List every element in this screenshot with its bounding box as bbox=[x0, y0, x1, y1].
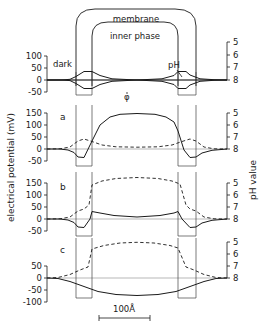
right-axis-title: pH value bbox=[248, 160, 258, 200]
ph-tick-a-6: 6 bbox=[233, 120, 238, 130]
ph-tick-c-7: 7 bbox=[233, 261, 238, 271]
label-ph: pH bbox=[168, 60, 180, 70]
ph-tick-dark-7: 7 bbox=[233, 62, 238, 72]
ph-tick-c-6: 6 bbox=[233, 249, 238, 259]
left-axis-title: electrical potential (mV) bbox=[6, 113, 16, 222]
membrane-potential-figure: membrane inner phase 100 50 0 -50 5 6 7 … bbox=[0, 0, 263, 335]
tick-b-150: 150 bbox=[26, 178, 42, 188]
tick-b-minus50: -50 bbox=[28, 226, 42, 236]
curve-ph-c bbox=[47, 242, 227, 278]
panel-dark: 100 50 0 -50 5 6 7 8 dark pH φ bbox=[26, 37, 239, 102]
wall-right-c bbox=[178, 238, 196, 298]
label-membrane: membrane bbox=[113, 14, 160, 24]
panel-a: 150 100 50 0 -50 5 6 7 8 a bbox=[26, 105, 239, 166]
scale-bar: 100Å bbox=[99, 303, 150, 321]
panel-letter-c: c bbox=[60, 245, 65, 255]
curve-ph-b bbox=[47, 178, 227, 220]
panel-c-right-axis: 5 6 7 8 bbox=[227, 237, 238, 283]
wall-right-b bbox=[178, 172, 196, 236]
tick-c-50: 50 bbox=[31, 261, 42, 271]
tick-dark-50: 50 bbox=[31, 63, 42, 73]
label-inner-phase: inner phase bbox=[110, 31, 160, 41]
panel-b-left-axis: 150 100 50 0 -50 bbox=[26, 178, 47, 236]
tick-c-0: 0 bbox=[37, 273, 42, 283]
tick-c-minus100: -100 bbox=[23, 297, 42, 307]
panel-b-right-axis: 5 6 7 8 bbox=[227, 178, 238, 224]
ph-tick-dark-6: 6 bbox=[233, 50, 238, 60]
ph-tick-a-5: 5 bbox=[233, 108, 238, 118]
tick-a-minus50: -50 bbox=[28, 156, 42, 166]
tick-dark-0: 0 bbox=[37, 75, 42, 85]
scale-bar-label: 100Å bbox=[113, 303, 135, 314]
panel-letter-a: a bbox=[60, 112, 66, 122]
panel-a-right-axis: 5 6 7 8 bbox=[227, 108, 238, 154]
tick-a-50: 50 bbox=[31, 132, 42, 142]
tick-dark-minus50: -50 bbox=[28, 87, 42, 97]
curve-ph-dark bbox=[47, 72, 227, 81]
panel-dark-left-axis: 100 50 0 -50 bbox=[26, 51, 47, 97]
ph-tick-a-8: 8 bbox=[233, 144, 238, 154]
tick-a-100: 100 bbox=[26, 120, 42, 130]
ph-tick-c-5: 5 bbox=[233, 237, 238, 247]
ph-tick-a-7: 7 bbox=[233, 132, 238, 142]
curve-phi-dark bbox=[47, 80, 227, 89]
tick-b-50: 50 bbox=[31, 202, 42, 212]
panel-dark-right-axis: 5 6 7 8 bbox=[227, 37, 238, 85]
panel-c-left-axis: 50 0 -50 -100 bbox=[23, 261, 47, 307]
panel-c: 50 0 -50 -100 5 6 7 8 c bbox=[23, 237, 239, 307]
curve-phi-a bbox=[47, 114, 227, 158]
figure-container: membrane inner phase 100 50 0 -50 5 6 7 … bbox=[0, 0, 263, 335]
ph-tick-dark-8: 8 bbox=[233, 75, 238, 85]
tick-dark-100: 100 bbox=[26, 51, 42, 61]
tick-b-0: 0 bbox=[37, 214, 42, 224]
label-dark: dark bbox=[53, 59, 72, 69]
tick-b-100: 100 bbox=[26, 190, 42, 200]
ph-tick-b-8: 8 bbox=[233, 214, 238, 224]
tick-a-150: 150 bbox=[26, 108, 42, 118]
ph-tick-b-7: 7 bbox=[233, 202, 238, 212]
ph-tick-b-5: 5 bbox=[233, 178, 238, 188]
curve-phi-c bbox=[47, 278, 227, 296]
tick-c-minus50: -50 bbox=[28, 285, 42, 295]
ph-tick-dark-5: 5 bbox=[233, 37, 238, 47]
ph-tick-c-8: 8 bbox=[233, 273, 238, 283]
curve-ph-a bbox=[47, 139, 227, 149]
tick-a-0: 0 bbox=[37, 144, 42, 154]
ph-tick-b-6: 6 bbox=[233, 190, 238, 200]
panel-letter-b: b bbox=[60, 182, 66, 192]
panel-a-left-axis: 150 100 50 0 -50 bbox=[26, 108, 47, 166]
panel-b: 150 100 50 0 -50 5 6 7 8 b bbox=[26, 172, 239, 236]
